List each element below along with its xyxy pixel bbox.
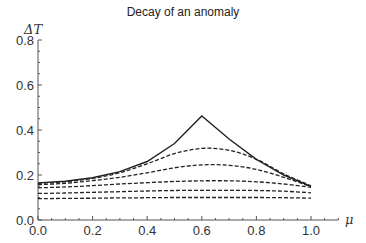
chart-title: Decay of an anomaly (127, 5, 240, 19)
series-line-t2 (38, 165, 311, 187)
y-tick-label: 0.0 (16, 213, 34, 228)
y-axis-label: ΔT (23, 22, 43, 37)
x-tick-label: 0.6 (193, 223, 211, 238)
series-line-t4 (38, 190, 311, 193)
decay-chart: Decay of an anomaly 0.00.20.40.60.81.00.… (0, 0, 366, 243)
series-line-initial (38, 116, 311, 186)
y-tick-label: 0.2 (16, 168, 34, 183)
x-tick-label: 0.4 (138, 223, 156, 238)
series-line-t5 (38, 198, 311, 199)
x-axis-label: μ (345, 212, 353, 227)
axes: 0.00.20.40.60.81.00.00.20.40.60.8 (16, 33, 338, 238)
series-line-t3 (38, 181, 311, 188)
y-tick-label: 0.6 (16, 78, 34, 93)
y-tick-label: 0.4 (16, 123, 34, 138)
curves (38, 116, 311, 199)
x-tick-label: 0.8 (247, 223, 265, 238)
x-tick-label: 0.2 (84, 223, 102, 238)
x-tick-label: 1.0 (302, 223, 320, 238)
